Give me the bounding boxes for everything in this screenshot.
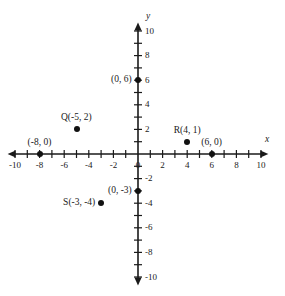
x-axis-name: x bbox=[265, 135, 269, 145]
x-axis-tick-label: 2 bbox=[152, 161, 174, 170]
y-axis-tick-label: 4 bbox=[145, 100, 150, 109]
y-axis-tick-label: -10 bbox=[145, 273, 157, 282]
x-axis-tick-label: -8 bbox=[29, 161, 51, 170]
y-axis-arrow-down bbox=[134, 278, 141, 286]
x-axis-tick-label: -2 bbox=[102, 161, 124, 170]
x-axis-tick-label: 0 bbox=[127, 161, 149, 170]
y-axis-tick-label: 6 bbox=[145, 76, 150, 85]
y-axis-tick-label: 2 bbox=[145, 125, 150, 134]
plotted-point bbox=[184, 139, 190, 145]
y-axis-tick-label: 10 bbox=[145, 27, 154, 36]
x-axis-tick-label: -6 bbox=[53, 161, 75, 170]
point-label: (0, 6) bbox=[111, 75, 132, 85]
y-axis-tick-label: -4 bbox=[145, 199, 153, 208]
point-label: (6, 0) bbox=[201, 138, 222, 148]
plotted-point bbox=[74, 126, 80, 132]
axes-and-ticks bbox=[0, 0, 285, 296]
x-axis-tick-label: -4 bbox=[78, 161, 100, 170]
x-axis-tick-label: -10 bbox=[4, 161, 26, 170]
plotted-point bbox=[209, 151, 215, 157]
plotted-point bbox=[37, 151, 43, 157]
x-axis-tick-label: 8 bbox=[225, 161, 247, 170]
y-axis-tick-label: -2 bbox=[145, 174, 153, 183]
x-axis-tick-label: 4 bbox=[176, 161, 198, 170]
y-axis-tick-label: 8 bbox=[145, 51, 150, 60]
point-label: (-8, 0) bbox=[28, 138, 52, 148]
plotted-point bbox=[135, 188, 141, 194]
y-axis-name: y bbox=[146, 12, 150, 22]
point-label: (0, -3) bbox=[108, 186, 132, 196]
y-axis-tick-label: -6 bbox=[145, 223, 153, 232]
point-label: Q(-5, 2) bbox=[61, 113, 92, 123]
y-axis-tick-label: -8 bbox=[145, 248, 153, 257]
point-label: R(4, 1) bbox=[174, 126, 201, 136]
x-axis-tick-label: 10 bbox=[250, 161, 272, 170]
y-axis-arrow-up bbox=[134, 22, 141, 30]
point-label: S(-3, -4) bbox=[63, 198, 95, 208]
coordinate-plane: -10-8-6-4-20246810108642-2-4-6-8-10 (0, … bbox=[0, 0, 285, 296]
x-axis-tick-label: 6 bbox=[201, 161, 223, 170]
